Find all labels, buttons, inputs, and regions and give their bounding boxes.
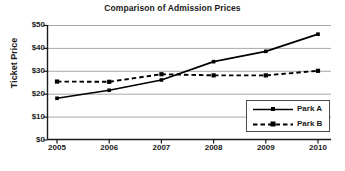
data-point-marker bbox=[55, 96, 59, 100]
data-point-marker bbox=[316, 69, 320, 73]
legend-line-solid-icon bbox=[252, 102, 294, 117]
data-point-marker bbox=[107, 80, 111, 84]
data-point-marker bbox=[212, 73, 216, 77]
data-point-marker bbox=[264, 73, 268, 77]
data-point-marker bbox=[264, 50, 268, 54]
series-line-park-b bbox=[57, 71, 318, 82]
data-point-marker bbox=[212, 60, 216, 64]
x-axis-tick-label: 2008 bbox=[194, 143, 234, 152]
data-point-marker bbox=[107, 88, 111, 92]
x-axis-tick-label: 2005 bbox=[37, 143, 77, 152]
legend-label-park-b: Park B bbox=[297, 119, 322, 128]
data-point-marker bbox=[316, 32, 320, 36]
legend-item-park-a: Park A bbox=[247, 102, 331, 117]
chart-legend: Park A Park B bbox=[246, 100, 330, 132]
series-line-park-a bbox=[57, 34, 318, 98]
data-point-marker bbox=[55, 79, 59, 83]
chart-container: Comparison of Admission Prices Ticket Pr… bbox=[0, 0, 345, 171]
data-point-marker bbox=[159, 72, 163, 76]
x-axis-tick-label: 2010 bbox=[298, 143, 338, 152]
legend-label-park-a: Park A bbox=[297, 104, 322, 113]
data-series-layer bbox=[55, 32, 320, 100]
legend-item-park-b: Park B bbox=[247, 117, 331, 132]
legend-line-dashed-icon bbox=[252, 117, 294, 132]
x-axis-tick-label: 2006 bbox=[89, 143, 129, 152]
x-axis-tick-label: 2007 bbox=[141, 143, 181, 152]
data-point-marker bbox=[160, 78, 164, 82]
x-axis-tick-label: 2009 bbox=[246, 143, 286, 152]
